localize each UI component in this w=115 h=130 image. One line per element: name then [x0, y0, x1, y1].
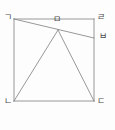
vertex-label-bottom-left: ㄴ [4, 97, 12, 106]
triangle-ma-to-da [58, 30, 94, 101]
geometry-figure-canvas: ㄱ ㄹ ㄴ ㄷ ㅁ ㅂ [0, 0, 115, 130]
triangle-ma-to-na [14, 30, 58, 101]
vertex-label-top-left: ㄱ [4, 13, 12, 22]
segments-group [14, 19, 94, 101]
vertex-label-bottom-right: ㄷ [97, 97, 105, 106]
vertex-label-apex: ㅁ [53, 15, 61, 24]
vertex-label-top-right: ㄹ [97, 13, 105, 22]
vertex-label-right-edge: ㅂ [99, 32, 107, 41]
